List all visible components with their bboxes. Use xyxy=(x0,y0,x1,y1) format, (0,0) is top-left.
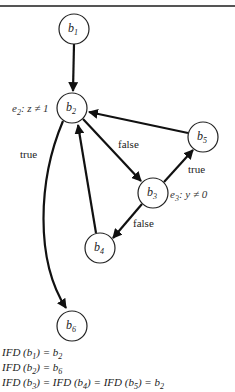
edge-b2-b6 xyxy=(44,121,67,308)
node-b6: b6 xyxy=(57,311,87,341)
edge-b2-b3 xyxy=(83,119,141,181)
edge-label-b2-b6: true xyxy=(20,148,37,160)
edge-b5-b2 xyxy=(89,112,188,133)
ifd-line-3: IFD (b3) = IFD (b4) = IFD (b5) = b2 xyxy=(2,376,164,391)
ifd-line-2: IFD (b2) = b6 xyxy=(2,361,62,376)
edge-label-b3-b4: false xyxy=(133,217,154,229)
control-flow-graph: b1 b2 b3 b4 b5 b6 false true true false … xyxy=(0,0,235,392)
condition-e3: e3: y ≠ 0 xyxy=(170,188,208,203)
edge-label-b3-b5: true xyxy=(188,163,205,175)
condition-e2: e2: z ≠ 1 xyxy=(12,102,49,117)
node-b5: b5 xyxy=(188,122,218,152)
node-b1: b1 xyxy=(59,14,89,44)
node-b2: b2 xyxy=(57,93,87,123)
edge-b4-b2 xyxy=(78,125,96,233)
node-b3: b3 xyxy=(138,178,168,208)
edge-label-b2-b3: false xyxy=(118,138,139,150)
edge-b1-b2 xyxy=(73,44,74,91)
node-b4: b4 xyxy=(85,233,115,263)
ifd-line-1: IFD (b1) = b2 xyxy=(2,346,62,361)
